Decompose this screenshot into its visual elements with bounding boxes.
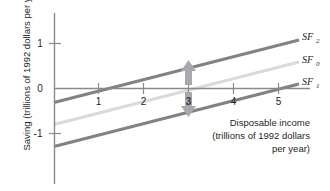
shift-up-arrow <box>181 60 196 85</box>
x-axis-title-line-1: Disposable income <box>230 117 310 128</box>
curve-label-sf0-sub: 0 <box>316 60 320 68</box>
curve-label-sf2-sub: 2 <box>316 37 320 45</box>
curve-label-sf1-base: SF <box>302 76 314 87</box>
curve-label-sf2: SF 2 <box>302 31 320 45</box>
curve-label-sf2-base: SF <box>302 31 314 42</box>
x-tick-label-5: 5 <box>276 96 282 107</box>
chart-plot-area: 1 0 -1 1 2 4 5 3 SF 2 SF 0 SF <box>0 0 330 191</box>
x-tick-label-2: 2 <box>141 96 147 107</box>
saving-function-chart: 1 0 -1 1 2 4 5 3 SF 2 SF 0 SF <box>0 0 330 191</box>
y-tick-label-minus1: -1 <box>34 128 43 139</box>
x-axis-title-line-3: per year) <box>272 143 310 154</box>
curve-label-sf0: SF 0 <box>302 54 320 68</box>
y-axis-title: Saving (trillions of 1992 dollars per ye… <box>21 0 32 154</box>
y-tick-label-0: 0 <box>37 83 43 94</box>
x-axis-title-line-2: (trillions of 1992 dollars <box>212 130 310 141</box>
x-tick-label-3: 3 <box>186 96 192 107</box>
x-tick-label-1: 1 <box>96 96 102 107</box>
x-tick-label-4: 4 <box>231 96 237 107</box>
curve-label-sf0-base: SF <box>302 54 314 65</box>
y-tick-label-1: 1 <box>37 38 43 49</box>
curve-label-sf1-sub: 1 <box>316 82 320 90</box>
